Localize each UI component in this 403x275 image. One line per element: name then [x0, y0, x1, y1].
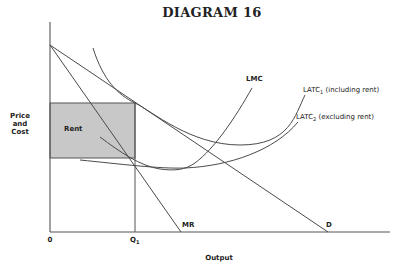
economics-diagram: DIAGRAM 16 Rent Price and Cost 0 Q1 Outp…	[0, 0, 403, 275]
origin-label: 0	[48, 236, 53, 244]
latc1-label: LATC1 (including rent)	[303, 86, 380, 95]
x-axis-label: Output	[205, 254, 233, 262]
mr-label: MR	[182, 221, 195, 229]
y-axis-label-line2: and	[13, 120, 28, 128]
rent-area	[50, 103, 135, 158]
latc2-label: LATC2 (excluding rent)	[296, 113, 374, 122]
rent-label: Rent	[64, 125, 83, 133]
y-axis-label-line3: Cost	[11, 128, 29, 136]
demand-label: D	[326, 221, 332, 229]
q1-label: Q1	[130, 236, 140, 245]
lmc-label: LMC	[246, 75, 263, 83]
diagram-title: DIAGRAM 16	[162, 5, 261, 20]
y-axis-label-line1: Price	[10, 112, 30, 120]
